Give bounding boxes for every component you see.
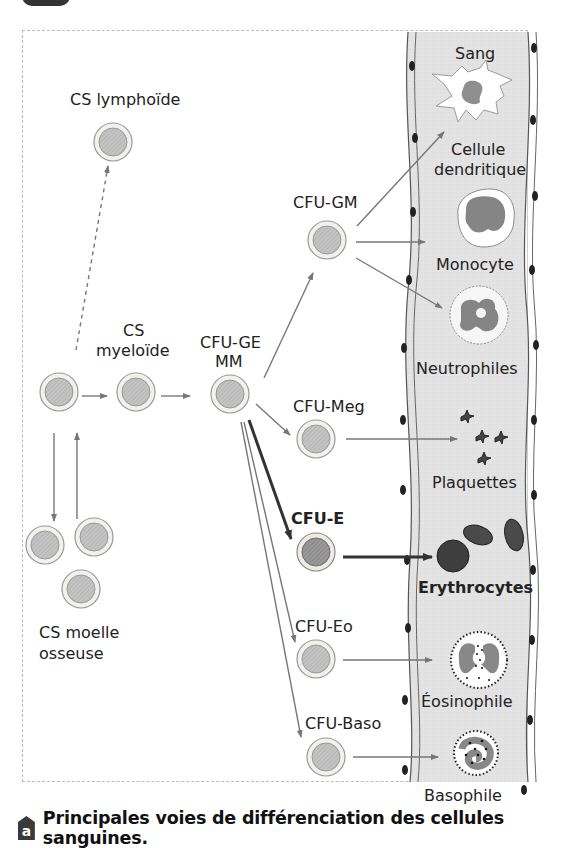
strong-arrow-to-cfu-e: [249, 420, 291, 539]
label-blood: Sang: [455, 44, 495, 63]
label-eosinophil: Éosinophile: [421, 692, 513, 711]
cfu-meg-cell: [297, 420, 335, 458]
cfu-eo-cell: [297, 640, 335, 678]
neutrophil-illustration: [450, 286, 508, 344]
label-cs-myeloid-line2: myeloïde: [96, 341, 170, 360]
cfu-baso-cell: [307, 738, 345, 776]
monocyte-illustration: [458, 189, 514, 247]
label-cs-myeloid-line1: CS: [123, 321, 144, 340]
label-dendritic-line1: Cellule: [451, 140, 505, 159]
figure-caption: a Principales voies de différenciation d…: [18, 808, 578, 848]
label-cfu-meg: CFU-Meg: [293, 397, 365, 416]
label-cfu-gm: CFU-GM: [293, 193, 358, 212]
eosinophil-illustration: [451, 632, 507, 688]
caption-text: Principales voies de différenciation des…: [43, 808, 578, 848]
differentiation-arrows: [54, 132, 457, 757]
label-cfu-gemm-line1: CFU-GE: [200, 333, 261, 352]
marrow-stem-cell-3: [62, 570, 100, 608]
label-cfu-e: CFU-E: [291, 509, 344, 528]
label-cs-lymphoid: CS lymphoïde: [70, 90, 180, 109]
label-dendritic-line2: dendritique: [434, 160, 526, 179]
lymphoid-stem-cell: [94, 123, 132, 161]
myeloid-stem-cell: [117, 373, 155, 411]
marrow-stem-cell-2: [75, 518, 113, 556]
caption-tag: a: [18, 816, 35, 840]
label-neutrophils: Neutrophiles: [416, 359, 518, 378]
label-platelets: Plaquettes: [432, 473, 517, 492]
cfu-e-cell: [297, 533, 335, 571]
label-cfu-gemm-line2: MM: [215, 352, 243, 371]
label-cfu-baso: CFU-Baso: [305, 714, 381, 733]
label-monocyte: Monocyte: [436, 255, 514, 274]
label-basophil: Basophile: [424, 786, 502, 805]
label-cs-marrow-line1: CS moelle: [39, 623, 119, 642]
label-cfu-eo: CFU-Eo: [295, 617, 353, 636]
label-erythrocytes: Erythrocytes: [418, 578, 533, 597]
marrow-stem-cell-1: [26, 526, 64, 564]
cfu-gm-cell: [308, 221, 346, 259]
basophil-illustration: [454, 731, 498, 775]
cfu-gemm-cell: [211, 375, 249, 413]
label-cs-marrow-line2: osseuse: [39, 644, 104, 663]
marrow-stem-cell: [40, 373, 78, 411]
